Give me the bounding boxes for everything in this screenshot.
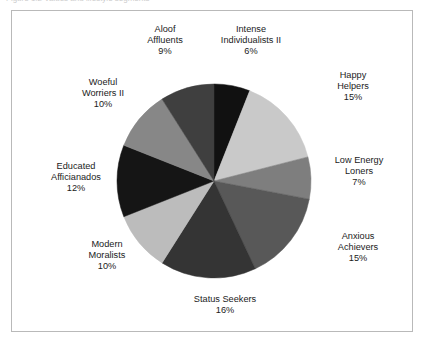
pie-chart: Intense Individualists II 6% Happy Helpe… (0, 0, 426, 346)
slice-label-value: 10% (57, 99, 149, 110)
slice-label-anxious-achievers: Anxious Achievers 15% (312, 231, 404, 265)
slice-label-happy-helpers: Happy Helpers 15% (310, 70, 396, 104)
slice-label-name-2: Worriers II (57, 88, 149, 99)
slice-label-name: Happy (310, 70, 396, 81)
slice-label-name-2: Loners (313, 166, 405, 177)
slice-label-value: 10% (63, 261, 151, 272)
slice-label-name: Intense (198, 24, 304, 35)
slice-label-value: 6% (198, 46, 304, 57)
slice-label-value: 12% (26, 183, 126, 194)
slice-label-name: Aloof (125, 24, 205, 35)
slice-label-name-2: Helpers (310, 81, 396, 92)
slice-label-aloof-affluents: Aloof Affluents 9% (125, 24, 205, 58)
slice-label-value: 9% (125, 46, 205, 57)
slice-label-value: 15% (310, 92, 396, 103)
slice-label-name-2: Achievers (312, 242, 404, 253)
slice-label-woeful-worriers-ii: Woeful Worriers II 10% (57, 77, 149, 111)
slice-label-intense-individualists-ii: Intense Individualists II 6% (198, 24, 304, 58)
slice-label-educated-afficianados: Educated Afficianados 12% (26, 161, 126, 195)
slice-label-modern-moralists: Modern Moralists 10% (63, 239, 151, 273)
slice-label-name: Anxious (312, 231, 404, 242)
slice-label-name-2: Individualists II (198, 35, 304, 46)
slice-label-name-2: Affluents (125, 35, 205, 46)
slice-label-name: Woeful (57, 77, 149, 88)
slice-label-name: Educated (26, 161, 126, 172)
slice-label-name: Status Seekers (165, 294, 285, 305)
slice-label-value: 7% (313, 177, 405, 188)
slice-label-name: Low Energy (313, 155, 405, 166)
slice-label-name-2: Moralists (63, 250, 151, 261)
slice-label-value: 16% (165, 305, 285, 316)
slice-label-status-seekers: Status Seekers 16% (165, 294, 285, 316)
slice-label-name-2: Afficianados (26, 172, 126, 183)
slice-label-name: Modern (63, 239, 151, 250)
slice-label-value: 15% (312, 253, 404, 264)
slice-label-low-energy-loners: Low Energy Loners 7% (313, 155, 405, 189)
